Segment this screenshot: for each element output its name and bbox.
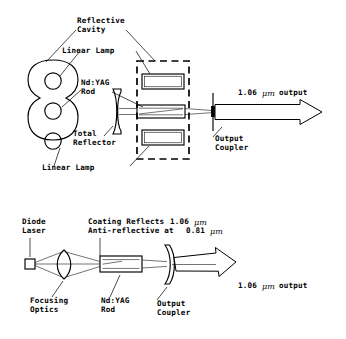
label-output-beam-bottom: 1.06 μm output bbox=[238, 281, 308, 291]
label-diode-laser-line1: Diode bbox=[22, 217, 46, 226]
label-output-beam-top: 1.06 μm output bbox=[238, 88, 308, 98]
label-output-coupler-bottom-line1: Output bbox=[157, 299, 186, 308]
coating-note-line2-value: 0.81 bbox=[186, 226, 205, 235]
output-beam-top-value: 1.06 bbox=[238, 88, 257, 97]
label-ndyag-rod-top-line1: Nd:YAG bbox=[81, 78, 110, 87]
coating-note-line1-pre: Coating Reflects bbox=[88, 217, 169, 226]
label-ndyag-rod-top-line2: Rod bbox=[81, 87, 96, 96]
label-total-reflector-line2: Reflector bbox=[73, 138, 116, 147]
label-ndyag-rod-bottom-line2: Rod bbox=[101, 305, 116, 314]
output-beam-bottom-word: output bbox=[279, 281, 308, 290]
label-coating-note-line2: Anti-reflective at 0.81 μm bbox=[88, 226, 223, 236]
label-diode-laser-line2: Laser bbox=[22, 226, 46, 235]
output-beam-top-unit: μm bbox=[262, 89, 275, 98]
label-reflective-cavity-line1: Reflective bbox=[77, 16, 125, 25]
label-linear-lamp-top: Linear Lamp bbox=[62, 46, 115, 55]
label-ndyag-rod-bottom-line1: Nd:YAG bbox=[101, 296, 130, 305]
coating-note-line2-pre: Anti-reflective at bbox=[88, 226, 179, 235]
label-output-coupler-top-line1: Output bbox=[215, 134, 244, 143]
coating-note-line2-unit: μm bbox=[210, 227, 223, 236]
label-focusing-optics-line1: Focusing bbox=[30, 296, 68, 305]
coating-note-line1-value: 1.06 bbox=[170, 217, 189, 226]
label-focusing-optics-line2: Optics bbox=[30, 305, 59, 314]
label-reflective-cavity-line2: Cavity bbox=[77, 25, 106, 34]
label-output-coupler-bottom-line2: Coupler bbox=[157, 308, 191, 317]
output-beam-top-word: output bbox=[279, 88, 308, 97]
label-total-reflector-line1: Total bbox=[73, 129, 97, 138]
output-beam-bottom-unit: μm bbox=[262, 282, 275, 291]
label-linear-lamp-bottom: Linear Lamp bbox=[42, 163, 95, 172]
label-output-coupler-top-line2: Coupler bbox=[215, 143, 249, 152]
laser-diagram-figure: Reflective Cavity Linear Lamp Nd:YAG Rod… bbox=[0, 0, 346, 339]
output-beam-bottom-value: 1.06 bbox=[238, 281, 257, 290]
label-layer: Reflective Cavity Linear Lamp Nd:YAG Rod… bbox=[0, 0, 346, 339]
